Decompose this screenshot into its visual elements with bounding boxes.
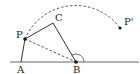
point-p-prime (119, 27, 122, 30)
label-p-prime: P' (124, 16, 133, 27)
point-p (23, 37, 27, 41)
segment-cb (53, 23, 76, 62)
segment-pb (25, 39, 76, 62)
segment-ap (21, 39, 25, 62)
geometry-diagram: P C P' A B (0, 0, 140, 74)
label-p: P (16, 29, 23, 40)
label-a: A (16, 64, 25, 74)
label-c: C (55, 12, 63, 23)
label-b: B (73, 64, 80, 74)
rotation-arc (25, 5, 120, 39)
